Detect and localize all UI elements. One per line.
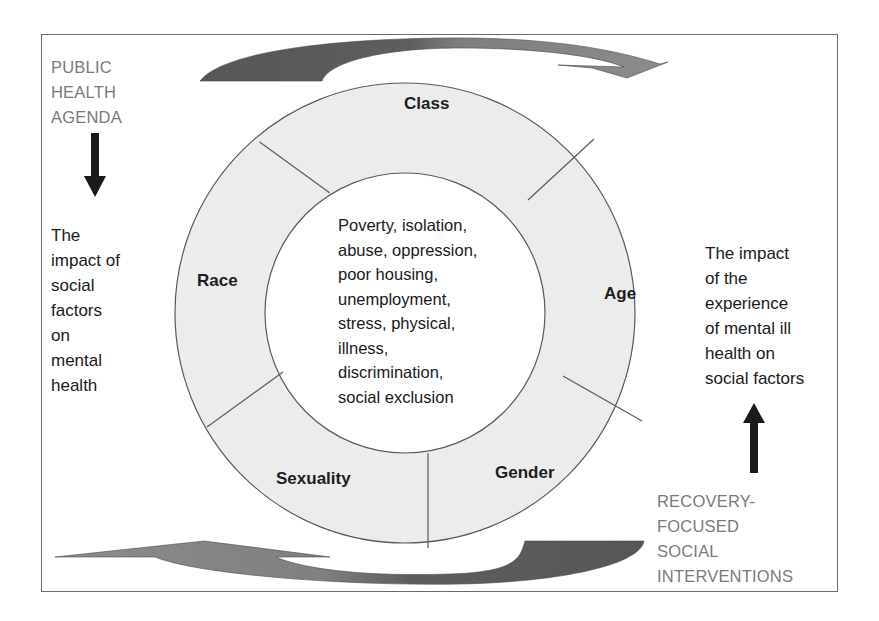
top-flow-arrow-icon xyxy=(200,38,668,81)
segment-label-gender: Gender xyxy=(495,463,555,483)
center-line: poor housing, xyxy=(338,262,508,287)
right-impact-text: The impact of the experience of mental i… xyxy=(705,241,804,391)
public-health-agenda-heading: PUBLIC HEALTH AGENDA xyxy=(51,55,122,130)
left-impact-text: The impact of social factors on mental h… xyxy=(51,223,120,398)
center-factors-text: Poverty, isolation, abuse, oppression, p… xyxy=(338,213,508,409)
segment-label-sexuality: Sexuality xyxy=(276,469,351,489)
center-line: Poverty, isolation, xyxy=(338,213,508,238)
center-line: illness, xyxy=(338,336,508,361)
recovery-focused-interventions-heading: RECOVERY- FOCUSED SOCIAL INTERVENTIONS xyxy=(657,489,793,589)
center-line: abuse, oppression, xyxy=(338,238,508,263)
segment-label-age: Age xyxy=(604,284,636,304)
bottom-flow-arrow-icon xyxy=(55,541,644,584)
center-line: stress, physical, xyxy=(338,311,508,336)
center-line: discrimination, xyxy=(338,360,508,385)
center-line: unemployment, xyxy=(338,287,508,312)
segment-label-race: Race xyxy=(197,271,238,291)
down-arrow-icon xyxy=(84,133,106,197)
up-arrow-icon xyxy=(743,403,765,473)
segment-label-class: Class xyxy=(404,94,449,114)
center-line: social exclusion xyxy=(338,385,508,410)
